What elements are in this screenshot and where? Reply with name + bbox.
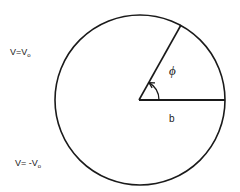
angle-label: ϕ	[169, 63, 176, 78]
circle-diagram: ϕ b V=Vo V= -Vo	[0, 0, 240, 192]
lower-potential-sub: o	[38, 163, 42, 169]
lower-potential-main: V= -V	[15, 158, 38, 168]
upper-potential-label: V=Vo	[10, 47, 31, 58]
radius-label: b	[169, 113, 175, 124]
lower-potential-label: V= -Vo	[15, 158, 42, 169]
upper-potential-sub: o	[27, 52, 31, 58]
upper-potential-main: V=V	[10, 47, 27, 57]
